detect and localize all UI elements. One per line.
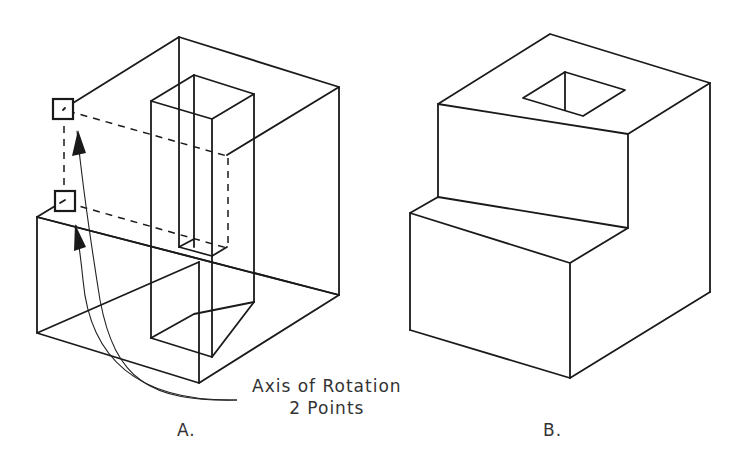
figure-a-base-block [37,200,339,383]
axis-of-rotation-label: Axis of Rotation 2 Points [252,378,402,417]
figure-b [410,34,710,378]
figure-b-lower-block [410,213,710,378]
annotation-line-2: 2 Points [252,400,402,417]
figure-b-upper-block [438,34,710,292]
figure-a-pillar [151,75,254,357]
figure-a [37,37,339,400]
figure-a-outer-box [65,37,339,295]
figure-b-label: B. [543,422,562,439]
arrowhead-upper-icon [72,130,86,156]
figure-b-step [410,197,628,263]
annotation-line-1: Axis of Rotation [252,378,402,395]
figure-a-label: A. [177,422,196,439]
figure-b-square-hole [523,72,625,116]
